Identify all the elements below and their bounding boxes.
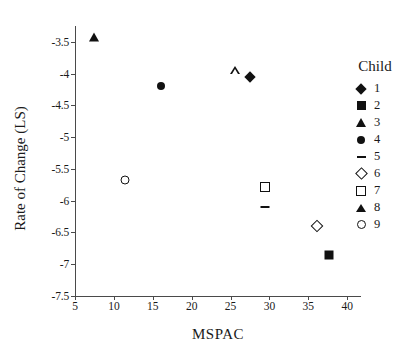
x-tick-label: 5 (72, 300, 78, 312)
legend-item[interactable]: 5 (336, 148, 412, 165)
filled-square-icon (354, 99, 368, 113)
data-point-child-6 (311, 220, 324, 233)
y-tick-label: -6.5 (52, 226, 69, 238)
x-tick-label: 25 (225, 300, 237, 312)
y-tick-label: -5 (60, 131, 69, 143)
y-tick (71, 169, 76, 170)
x-axis-line (75, 296, 361, 297)
y-axis-title: Rate of Change (LS) (12, 69, 29, 269)
x-tick-label: 40 (341, 300, 353, 312)
y-tick (71, 105, 76, 106)
data-point-child-2 (324, 250, 333, 259)
y-tick (71, 42, 76, 43)
legend-item-label: 1 (374, 82, 380, 95)
legend-item[interactable]: 7 (336, 182, 412, 199)
legend-title: Child (336, 58, 412, 75)
open-square-icon (354, 184, 368, 198)
y-tick (71, 264, 76, 265)
open-diamond-icon (354, 167, 368, 181)
y-tick-label: -4 (60, 68, 69, 80)
data-point-child-4 (157, 82, 165, 90)
data-point-child-5 (260, 206, 269, 208)
legend-item-label: 7 (374, 184, 380, 197)
legend-item[interactable]: 8 (336, 199, 412, 216)
legend-item[interactable]: 2 (336, 97, 412, 114)
y-tick-label: -7.5 (52, 290, 69, 302)
y-tick-label: -5.5 (52, 163, 69, 175)
x-tick-label: 15 (147, 300, 159, 312)
legend-item[interactable]: 9 (336, 216, 412, 233)
open-triangle-icon (354, 201, 368, 215)
legend-item-label: 8 (374, 201, 380, 214)
dash-icon (354, 150, 368, 164)
x-tick-label: 10 (108, 300, 120, 312)
legend: Child 123456789 (336, 58, 412, 233)
data-point-child-7 (260, 182, 270, 192)
scatter-chart: -3.5-4-4.5-5-5.5-6-6.5-7-7.5 51015202530… (0, 0, 415, 361)
legend-item-label: 2 (374, 99, 380, 112)
legend-item[interactable]: 6 (336, 165, 412, 182)
legend-item-label: 3 (374, 116, 380, 129)
x-axis-title: MSPAC (75, 326, 361, 343)
legend-item[interactable]: 3 (336, 114, 412, 131)
x-tick-label: 30 (264, 300, 276, 312)
x-tick-label: 20 (186, 300, 198, 312)
data-points (75, 26, 355, 34)
y-tick (71, 137, 76, 138)
y-tick-label: -7 (60, 258, 69, 270)
filled-circle-icon (354, 133, 368, 147)
plot-area: -3.5-4-4.5-5-5.5-6-6.5-7-7.5 51015202530… (75, 26, 355, 296)
legend-item-label: 6 (374, 167, 380, 180)
open-circle-icon (354, 218, 368, 232)
legend-item-label: 5 (374, 150, 380, 163)
y-tick-label: -4.5 (52, 99, 69, 111)
y-tick (71, 232, 76, 233)
legend-item-label: 4 (374, 133, 380, 146)
filled-triangle-icon (354, 116, 368, 130)
legend-items: 123456789 (336, 80, 412, 233)
legend-item-label: 9 (374, 218, 380, 231)
y-tick (71, 74, 76, 75)
data-point-child-3 (89, 32, 99, 41)
data-point-child-8 (230, 66, 240, 74)
legend-item[interactable]: 1 (336, 80, 412, 97)
legend-item[interactable]: 4 (336, 131, 412, 148)
y-axis-line (75, 26, 76, 296)
data-point-child-9 (120, 176, 129, 185)
y-tick (71, 201, 76, 202)
x-tick-label: 35 (303, 300, 315, 312)
filled-diamond-icon (354, 82, 368, 96)
data-point-child-1 (244, 71, 255, 82)
y-tick-label: -6 (60, 195, 69, 207)
y-tick-label: -3.5 (52, 36, 69, 48)
